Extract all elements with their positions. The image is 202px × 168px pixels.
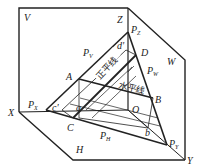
- label-pz: PZ: [130, 24, 141, 36]
- label-z: Z: [117, 14, 123, 25]
- label-horizontal-line: 水平线: [118, 79, 147, 96]
- label-ph: PH: [99, 130, 111, 142]
- label-pv: PV: [82, 47, 94, 59]
- label-point-c-prime: c': [52, 102, 59, 113]
- label-point-a-lower: a: [76, 102, 81, 113]
- label-py: PY: [168, 138, 179, 150]
- label-point-b-lower: b: [145, 127, 150, 138]
- label-point-d: D: [140, 47, 149, 58]
- plane-projection-diagram: V Z W X Y H O PZ PV PW PX PH PY A B C D …: [0, 0, 202, 168]
- label-pw: PW: [146, 65, 159, 77]
- label-x: X: [7, 107, 15, 118]
- label-h: H: [75, 144, 84, 155]
- tick-mark: [128, 66, 134, 72]
- label-point-c: C: [67, 122, 74, 133]
- label-v: V: [24, 12, 32, 23]
- label-point-d-prime: d': [117, 40, 125, 51]
- label-o: O: [132, 104, 139, 115]
- trace-pv: [46, 32, 128, 110]
- label-point-b: B: [155, 94, 161, 105]
- label-w: W: [167, 56, 177, 67]
- label-px: PX: [27, 99, 38, 111]
- label-point-a: A: [65, 71, 73, 82]
- label-y: Y: [187, 155, 194, 166]
- plane-line-3: [80, 98, 158, 118]
